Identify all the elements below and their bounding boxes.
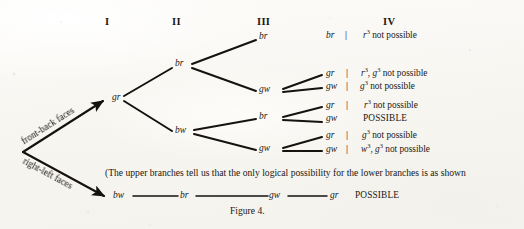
leaf-separator-1: | xyxy=(345,30,347,40)
leaf-reason-2: r3, g3 not possible xyxy=(361,69,427,78)
edge-gw1-leaf2 xyxy=(283,88,322,92)
node-level3-gw-1: gw xyxy=(259,85,270,95)
leaf-node-7: gw xyxy=(326,145,337,155)
edge-bw-br xyxy=(194,119,256,130)
leaf-node-6: gr xyxy=(326,131,334,141)
column-header-III: III xyxy=(257,17,270,28)
chain-node-3: gw xyxy=(269,191,280,201)
leaf-reason-3: g3 not possible xyxy=(360,82,415,91)
leaf-node-3: gw xyxy=(326,82,337,92)
node-level3-gw-2: gw xyxy=(259,144,270,154)
leaf-reason-4: r3 not possible xyxy=(364,101,418,110)
leaf-separator-6: | xyxy=(346,130,348,140)
column-header-IV: IV xyxy=(383,17,395,28)
edge-br-br xyxy=(192,40,256,64)
figure-caption: Figure 4. xyxy=(230,206,265,216)
node-level2-bw: bw xyxy=(175,126,186,136)
node-level3-br-1: br xyxy=(259,32,267,42)
leaf-node-1: br xyxy=(326,31,334,41)
explanatory-note: (The upper branches tell us that the onl… xyxy=(105,168,466,178)
edge-gw1-leaf1 xyxy=(283,75,322,89)
edge-br3-leaf2 xyxy=(283,120,322,122)
leaf-separator-4: | xyxy=(346,100,348,110)
leaf-separator-3: | xyxy=(346,81,348,91)
leaf-reason-6: g3 not possible xyxy=(362,131,417,140)
chain-result: POSSIBLE xyxy=(355,191,399,200)
chain-node-2: br xyxy=(180,191,188,201)
edge-gr-br xyxy=(124,68,172,96)
leaf-separator-2: | xyxy=(346,68,348,78)
node-level2-br: br xyxy=(175,59,183,69)
edge-bw-gw xyxy=(194,134,256,150)
edge-gr-bw xyxy=(124,101,172,131)
leaf-separator-7: | xyxy=(346,144,348,154)
leaf-node-4: gr xyxy=(326,101,334,111)
leaf-reason-5: POSSIBLE xyxy=(363,114,407,123)
leaf-reason-1: r3 not possible xyxy=(363,31,417,40)
chain-node-1: bw xyxy=(113,191,124,201)
edge-br-gw xyxy=(192,68,256,91)
edge-br3-leaf1 xyxy=(283,107,322,117)
node-root-gr: gr xyxy=(112,93,120,103)
column-header-I: I xyxy=(105,17,109,28)
leaf-reason-7: w3, g3 not possible xyxy=(361,145,430,154)
chain-node-4: gr xyxy=(330,191,338,201)
node-level3-br-2: br xyxy=(259,112,267,122)
leaf-node-2: gr xyxy=(326,69,334,79)
column-header-II: II xyxy=(172,17,181,28)
edge-gw2-leaf1 xyxy=(283,137,322,148)
leaf-node-5: gw xyxy=(326,114,337,124)
right-left-faces-arrow xyxy=(23,152,104,196)
